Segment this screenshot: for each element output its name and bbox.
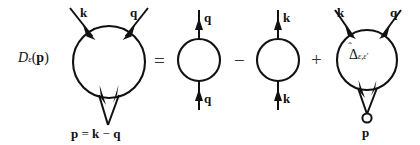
label-d4-top-left-k: k: [337, 6, 344, 19]
label-d1-bottom-equation: p = k − q: [71, 127, 120, 140]
delta-subscript: ε,ε′: [358, 52, 368, 61]
diagram-3-group: [257, 10, 299, 110]
lhs-propagator-label: Dε(p): [18, 51, 49, 65]
arrowhead-q-1: [123, 25, 136, 40]
label-d4-delta-operator: ̂Δε,ε′: [349, 48, 368, 62]
diagram-4-group: [335, 10, 401, 123]
outgoing-line-right-4: [367, 88, 377, 114]
lhs-D-symbol: D: [18, 50, 28, 65]
arrowhead-bottom-k-3: [274, 89, 282, 101]
plus-operator: +: [311, 50, 322, 69]
label-d1-minus: −: [103, 126, 110, 141]
diagram-2-group: [178, 10, 220, 110]
loop-circle-2: [178, 39, 220, 81]
delta-symbol: Δ: [349, 47, 358, 62]
arrowhead-bottom-q-2: [195, 89, 203, 101]
arrowhead-k-1: [83, 25, 96, 40]
arrowhead-top-k-3: [274, 18, 282, 30]
external-vertex-dot-4: [362, 113, 371, 122]
lhs-close-paren: ): [44, 50, 49, 65]
label-d2-bottom-q: q: [204, 92, 211, 105]
feynman-diagram-figure: Dε(p) = − + k q p = k − q q q k k k q ̂Δ…: [0, 0, 420, 145]
label-d3-bottom-k: k: [283, 92, 290, 105]
arrowhead-q-4: [379, 25, 390, 39]
label-d1-eq: =: [81, 126, 88, 141]
label-d1-top-left-k: k: [80, 6, 87, 19]
outgoing-line-right-1: [108, 95, 119, 125]
loop-circle-1: [73, 26, 145, 98]
label-d1-top-right-q: q: [130, 6, 137, 19]
label-d3-top-k: k: [283, 11, 290, 24]
minus-operator: −: [234, 51, 245, 70]
label-d4-top-right-q: q: [390, 6, 397, 19]
arrowhead-top-q-2: [195, 18, 203, 30]
equals-operator: =: [154, 51, 165, 70]
lhs-p-symbol: p: [36, 50, 44, 65]
label-d4-bottom-p: p: [362, 126, 369, 139]
loop-circle-3: [257, 39, 299, 81]
label-d2-top-q: q: [204, 11, 211, 24]
label-d1-q: q: [113, 126, 120, 141]
diagram-1-group: [70, 8, 148, 125]
